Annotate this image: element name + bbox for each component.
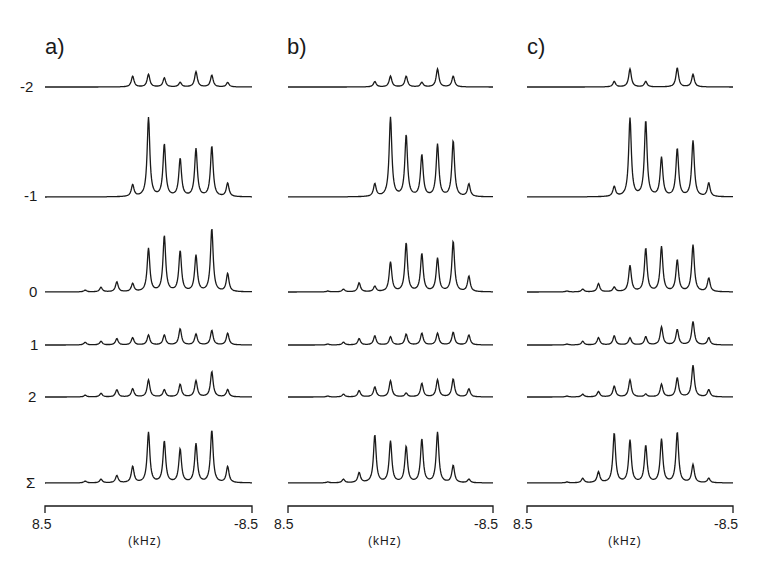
spectrum-b-row-2 [288,379,493,397]
spectrum-a-row-2 [45,372,252,397]
x-axis-a [45,506,252,513]
x-tick-right-a: -8.5 [234,517,258,531]
spectra-plot [0,0,768,568]
x-tick-right-c: -8.5 [714,517,738,531]
row-label-minus-2: -2 [20,79,33,94]
spectrum-a-row--2 [45,72,252,88]
x-axis-unit-a: (kHz) [128,535,162,547]
row-label-2: 2 [28,389,36,404]
spectrum-b-row-0 [288,242,493,292]
spectrum-b-row-Σ [288,432,493,483]
spectrum-c-row--1 [527,118,733,197]
x-tick-right-b: -8.5 [474,517,498,531]
x-axis-unit-c: (kHz) [608,535,642,547]
spectrum-c-row-2 [527,365,733,397]
panel-title-c: c) [527,36,545,58]
x-tick-left-b: 8.5 [274,517,293,531]
spectrum-a-row-0 [45,229,252,292]
row-label-1: 1 [30,337,38,352]
x-tick-left-a: 8.5 [32,517,51,531]
spectrum-b-row--2 [288,69,493,87]
spectrum-c-row--2 [527,68,733,87]
panel-title-b: b) [287,36,307,58]
spectrum-b-row-1 [288,332,493,345]
spectrum-a-row-Σ [45,431,252,483]
row-label-sum: Σ [26,475,35,490]
spectrum-a-row-1 [45,329,252,345]
x-axis-c [527,506,733,513]
row-label-0: 0 [29,284,37,299]
spectrum-c-row-Σ [527,433,733,483]
spectrum-a-row--1 [45,117,252,197]
x-tick-left-c: 8.5 [513,517,532,531]
spectrum-c-row-0 [527,245,733,292]
row-label-minus-1: -1 [24,188,37,203]
spectrum-c-row-1 [527,321,733,345]
panel-title-a: a) [45,36,65,58]
x-axis-b [288,506,493,513]
x-axis-unit-b: (kHz) [368,535,402,547]
spectrum-b-row--1 [288,117,493,197]
